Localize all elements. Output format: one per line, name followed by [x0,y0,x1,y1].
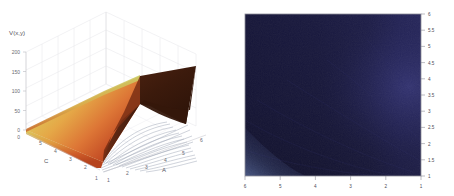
surface-plot-svg: V(x,y) 200 150 100 50 0 0 5 4 3 2 1 C 1 … [0,0,227,196]
heatmap-y-tick-1-5: 1.5 [428,158,435,163]
a-tick-5: 5 [182,150,185,156]
heatmap-y-tick-5: 5 [428,44,431,49]
a-tick-3: 3 [145,164,148,170]
c-tick-5: 5 [39,140,42,146]
heatmap-y-tick-2: 2 [428,142,431,147]
heatmap-y-axis [421,14,425,176]
heatmap-y-tick-3-5: 3.5 [428,93,435,98]
heatmap-svg: 6 5.5 5 4.5 4 3.5 3 2.5 2 1.5 1 6 5 4 3 [227,0,454,196]
a-tick-2: 2 [126,170,129,176]
z-tick-200: 200 [12,49,21,55]
c-tick-4: 4 [54,148,57,154]
z-tick-0: 0 [17,127,20,133]
a-tick-4: 4 [164,157,167,163]
heatmap-y-tick-1: 1 [428,174,431,179]
heatmap-y-tick-6: 6 [428,12,431,17]
a-axis-title: A [162,167,166,173]
heatmap-x-tick-4: 4 [314,184,317,189]
heatmap-x-tick-1: 1 [420,184,423,189]
heatmap-x-tick-3: 3 [349,184,352,189]
c-axis-title: C [44,158,49,164]
c-tick-2: 2 [84,164,87,170]
heatmap-y-tick-2-5: 2.5 [428,125,435,130]
z-tick-base: 0 [17,134,20,140]
z-tick-150: 150 [12,69,21,75]
c-tick-3: 3 [69,156,72,162]
heatmap-x-axis [245,176,421,180]
z-tick-50: 50 [14,108,20,114]
heatmap-x-tick-5: 5 [279,184,282,189]
heatmap-y-tick-4-5: 4.5 [428,61,435,66]
a-tick-6: 6 [200,137,203,143]
c-tick-1: 1 [95,175,98,181]
heatmap-x-tick-2: 2 [385,184,388,189]
z-axis [23,52,26,130]
heatmap-panel: 6 5.5 5 4.5 4 3.5 3 2.5 2 1.5 1 6 5 4 3 [227,0,454,196]
heatmap-y-tick-4: 4 [428,77,431,82]
heatmap-field [245,14,421,176]
figure-container: V(x,y) 200 150 100 50 0 0 5 4 3 2 1 C 1 … [0,0,454,196]
z-tick-100: 100 [12,88,21,94]
heatmap-y-tick-5-5: 5.5 [428,28,435,33]
z-axis-title: V(x,y) [9,29,25,36]
heatmap-x-tick-6: 6 [244,184,247,189]
surface-plot-panel: V(x,y) 200 150 100 50 0 0 5 4 3 2 1 C 1 … [0,0,227,196]
heatmap-y-tick-3: 3 [428,109,431,114]
a-tick-1: 1 [107,177,110,183]
